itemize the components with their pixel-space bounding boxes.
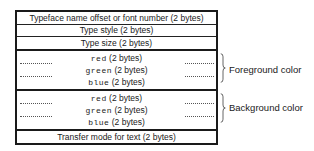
field-name: red (91, 94, 107, 103)
row-type-style: Type style (2 bytes) (17, 25, 216, 37)
field-size: (2 bytes) (109, 53, 142, 63)
divider-dotted (185, 116, 214, 117)
brace-icon (220, 48, 226, 88)
field-size: (2 bytes) (109, 93, 142, 103)
field-size: (2 bytes) (114, 105, 147, 115)
divider-dotted (20, 63, 52, 64)
field-fg-blue: blue (2 bytes) (17, 76, 216, 88)
background-color-label: Background color (229, 102, 303, 113)
field-bg-green: green (2 bytes) (17, 104, 216, 116)
field-fg-green: green (2 bytes) (17, 64, 216, 76)
field-size: (2 bytes) (112, 117, 145, 127)
text-record-structure: Typeface name offset or font number (2 b… (15, 10, 218, 145)
divider-dotted (20, 103, 52, 104)
field-name: green (86, 106, 113, 115)
foreground-color-label: Foreground color (229, 64, 301, 75)
divider-dotted (20, 116, 52, 117)
row-type-size: Type size (2 bytes) (17, 37, 216, 51)
row-typeface: Typeface name offset or font number (2 b… (17, 12, 216, 25)
field-size: (2 bytes) (114, 65, 147, 75)
field-bg-blue: blue (2 bytes) (17, 116, 216, 128)
divider-dotted (185, 76, 214, 77)
brace-icon (220, 88, 226, 128)
foreground-color-group: red (2 bytes) green (2 bytes) blue (2 by… (17, 51, 216, 91)
field-name: green (86, 66, 113, 75)
field-name: red (91, 54, 107, 63)
row-transfer-mode: Transfer mode for text (2 bytes) (17, 131, 216, 143)
divider-dotted (185, 103, 214, 104)
background-color-group: red (2 bytes) green (2 bytes) blue (2 by… (17, 91, 216, 131)
field-name: blue (88, 118, 109, 127)
field-size: (2 bytes) (112, 77, 145, 87)
divider-dotted (185, 63, 214, 64)
divider-dotted (20, 76, 52, 77)
field-name: blue (88, 78, 109, 87)
